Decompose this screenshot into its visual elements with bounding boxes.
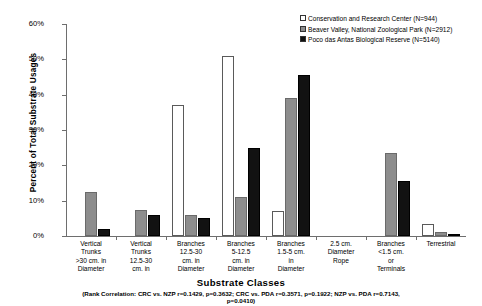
x-axis-category-label: VerticalTrunks12.5-30cm. in bbox=[116, 240, 166, 273]
y-axis-tick bbox=[62, 95, 66, 96]
x-axis-category-label: VerticalTrunks>30 cm. inDiameter bbox=[66, 240, 116, 273]
legend-label: Poco das Antas Biological Reserve (N=514… bbox=[308, 35, 440, 44]
category-label-line: Diameter bbox=[266, 265, 316, 273]
legend-label: Beaver Valley, National Zoological Park … bbox=[308, 25, 452, 34]
bar-crc bbox=[422, 224, 435, 236]
bar-nzp bbox=[185, 215, 198, 236]
category-label-line: Branches bbox=[366, 240, 416, 248]
chart-footnote: (Rank Correlation: CRC vs. NZP r=0.1429,… bbox=[0, 290, 482, 305]
category-label-line: >30 cm. in bbox=[66, 257, 116, 265]
category-label-line: Branches bbox=[266, 240, 316, 248]
legend-item: Conservation and Research Center (N=944) bbox=[300, 14, 482, 23]
category-label-line: Vertical bbox=[66, 240, 116, 248]
category-label-line: Trunks bbox=[66, 248, 116, 256]
x-axis-category-label: 2.5 cm.DiameterRope bbox=[316, 240, 366, 265]
bar-nzp bbox=[385, 153, 398, 236]
y-axis-tick bbox=[62, 130, 66, 131]
bar-pda bbox=[98, 229, 111, 236]
footnote-line-1: (Rank Correlation: CRC vs. NZP r=0.1429,… bbox=[82, 290, 400, 297]
bar-chart: Percent of Total Substrate Usages 0%10%2… bbox=[0, 0, 482, 306]
legend-swatch-crc bbox=[300, 15, 306, 21]
bar-nzp bbox=[285, 98, 298, 236]
bar-pda bbox=[398, 181, 411, 236]
category-label-line: cm. in bbox=[166, 257, 216, 265]
legend-item: Poco das Antas Biological Reserve (N=514… bbox=[300, 35, 482, 44]
legend: Conservation and Research Center (N=944)… bbox=[300, 14, 482, 46]
x-axis-category-label: Branches12.5-30cm. inDiameter bbox=[166, 240, 216, 273]
x-axis-category-label: Terrestrial bbox=[416, 240, 466, 248]
category-label-line: in bbox=[266, 257, 316, 265]
category-label-line: cm. in bbox=[216, 257, 266, 265]
bar-nzp bbox=[135, 210, 148, 237]
category-label-line: Diameter bbox=[316, 248, 366, 256]
y-axis-tick bbox=[62, 236, 66, 237]
bar-pda bbox=[448, 234, 461, 236]
bar-crc bbox=[272, 211, 285, 236]
y-axis-tick-label: 0% bbox=[4, 232, 44, 240]
y-axis-tick-label: 30% bbox=[4, 126, 44, 134]
category-label-line: Terminals bbox=[366, 265, 416, 273]
category-label-line: 2.5 cm. bbox=[316, 240, 366, 248]
y-axis-tick-label: 60% bbox=[4, 20, 44, 28]
category-label-line: Diameter bbox=[166, 265, 216, 273]
y-axis-tick bbox=[62, 59, 66, 60]
legend-item: Beaver Valley, National Zoological Park … bbox=[300, 25, 482, 34]
footnote-line-2: p=0.0410) bbox=[0, 297, 482, 304]
bar-pda bbox=[298, 75, 311, 236]
y-axis-tick-label: 50% bbox=[4, 55, 44, 63]
category-label-line: <1.5 cm. bbox=[366, 248, 416, 256]
legend-swatch-nzp bbox=[300, 26, 306, 32]
legend-swatch-pda bbox=[300, 36, 306, 42]
category-label-line: Branches bbox=[166, 240, 216, 248]
plot-area: 0%10%20%30%40%50%60% bbox=[66, 24, 466, 236]
y-axis-tick-label: 10% bbox=[4, 197, 44, 205]
y-axis-tick bbox=[62, 165, 66, 166]
category-label-line: Terrestrial bbox=[416, 240, 466, 248]
category-label-line: Diameter bbox=[66, 265, 116, 273]
category-label-line: or bbox=[366, 257, 416, 265]
y-axis-tick bbox=[62, 201, 66, 202]
x-axis-category-label: Branches1.5-5 cm.inDiameter bbox=[266, 240, 316, 273]
bar-nzp bbox=[435, 232, 448, 236]
bar-crc bbox=[172, 105, 185, 236]
category-label-line: Vertical bbox=[116, 240, 166, 248]
bar-pda bbox=[198, 218, 211, 236]
category-label-line: Branches bbox=[216, 240, 266, 248]
category-label-line: Diameter bbox=[216, 265, 266, 273]
y-axis-line bbox=[66, 24, 67, 236]
category-label-line: 5-12.5 bbox=[216, 248, 266, 256]
category-label-line: cm. in bbox=[116, 265, 166, 273]
bar-pda bbox=[248, 148, 261, 236]
category-label-line: Trunks bbox=[116, 248, 166, 256]
x-axis-category-label: Branches5-12.5cm. inDiameter bbox=[216, 240, 266, 273]
x-axis-title: Substrate Classes bbox=[0, 277, 482, 288]
legend-label: Conservation and Research Center (N=944) bbox=[308, 14, 437, 23]
y-axis-tick-label: 40% bbox=[4, 91, 44, 99]
category-label-line: 1.5-5 cm. bbox=[266, 248, 316, 256]
category-label-line: 12.5-30 bbox=[116, 257, 166, 265]
y-axis-tick-label: 20% bbox=[4, 161, 44, 169]
y-axis-tick bbox=[62, 24, 66, 25]
bar-nzp bbox=[235, 197, 248, 236]
bar-pda bbox=[148, 215, 161, 236]
x-axis-category-label: Branches<1.5 cm.orTerminals bbox=[366, 240, 416, 273]
bar-nzp bbox=[85, 192, 98, 236]
bar-crc bbox=[222, 56, 235, 236]
category-label-line: Rope bbox=[316, 257, 366, 265]
category-label-line: 12.5-30 bbox=[166, 248, 216, 256]
